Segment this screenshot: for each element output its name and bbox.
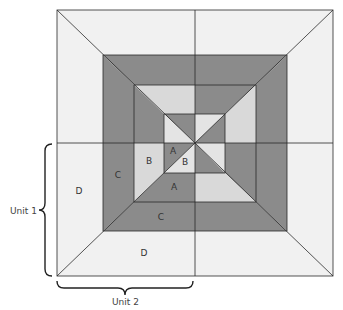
region-label: B: [182, 157, 188, 167]
unit1-brace: [39, 144, 52, 276]
unit1-label: Unit 1: [10, 206, 37, 216]
region-label: B: [146, 156, 152, 166]
region-label: C: [158, 212, 164, 222]
quilt-lines: [57, 10, 333, 276]
unit2-label: Unit 2: [112, 297, 139, 307]
unit2-brace: [57, 281, 193, 295]
region-label: D: [141, 248, 148, 258]
region-label: A: [171, 182, 178, 192]
quilt-unit-diagram: DCBABACD Unit 1 Unit 2: [0, 0, 343, 310]
region-label: D: [76, 186, 83, 196]
region-label: C: [115, 170, 121, 180]
region-label: A: [170, 146, 177, 156]
